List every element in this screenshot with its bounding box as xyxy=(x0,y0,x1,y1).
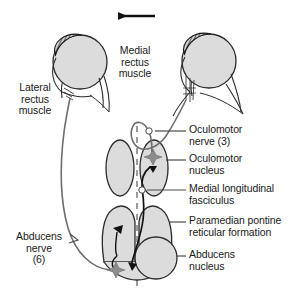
label-oculomotor-nucleus: Oculomotor nucleus xyxy=(189,153,295,176)
label-oculomotor-nerve: Oculomotor nerve (3) xyxy=(189,124,295,147)
label-lateral-rectus-muscle: Lateral rectus muscle xyxy=(6,82,64,117)
pprf-left xyxy=(102,206,135,262)
label-medial-rectus-muscle: Medial rectus muscle xyxy=(107,45,163,80)
label-abducens-nerve: Abducens nerve (6) xyxy=(8,231,70,266)
oculomotor-nerve-marker xyxy=(146,128,152,134)
label-abducens-nucleus: Abducens nucleus xyxy=(189,249,289,272)
abducens-nucleus xyxy=(135,237,177,279)
oculomotor-nucleus-left xyxy=(106,140,134,196)
mlf-marker xyxy=(139,187,145,193)
label-medial-longitudinal-fasciculus: Medial longitudinal fasciculus xyxy=(189,183,297,206)
label-paramedian-pontine-reticular-formation: Paramedian pontine reticular formation xyxy=(189,215,297,238)
gaze-pathway-figure: Lateral rectus muscle Medial rectus musc… xyxy=(0,0,297,293)
